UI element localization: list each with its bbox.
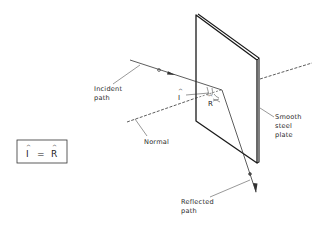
svg-text:Incident: Incident [94, 85, 122, 93]
normal-label: Normal [135, 119, 169, 146]
svg-text:R: R [208, 100, 213, 108]
arrowhead-icon [253, 183, 258, 193]
svg-text:Smooth: Smooth [275, 113, 302, 121]
svg-text:R: R [51, 149, 57, 159]
plate-label: Smooth steel plate [260, 108, 302, 139]
reflected-path-label: Reflected path [181, 180, 250, 215]
incident-path-label: Incident path [94, 65, 140, 102]
svg-text:^: ^ [208, 93, 213, 100]
svg-text:=: = [37, 149, 45, 159]
svg-text:Reflected: Reflected [181, 198, 214, 206]
svg-text:path: path [181, 207, 197, 215]
svg-text:plate: plate [275, 131, 293, 139]
svg-text:steel: steel [275, 122, 292, 130]
svg-text:path: path [94, 94, 110, 102]
svg-text:I: I [178, 94, 180, 102]
reflection-diagram: ^ I ^ R Incident path Normal Smooth stee… [0, 0, 325, 230]
svg-text:Normal: Normal [144, 138, 169, 146]
svg-text:I: I [26, 149, 29, 159]
arrowhead-icon [167, 71, 175, 75]
equation-box: ^ I = ^ R [17, 140, 67, 163]
steel-plate [196, 14, 259, 163]
svg-text:^: ^ [178, 87, 183, 94]
